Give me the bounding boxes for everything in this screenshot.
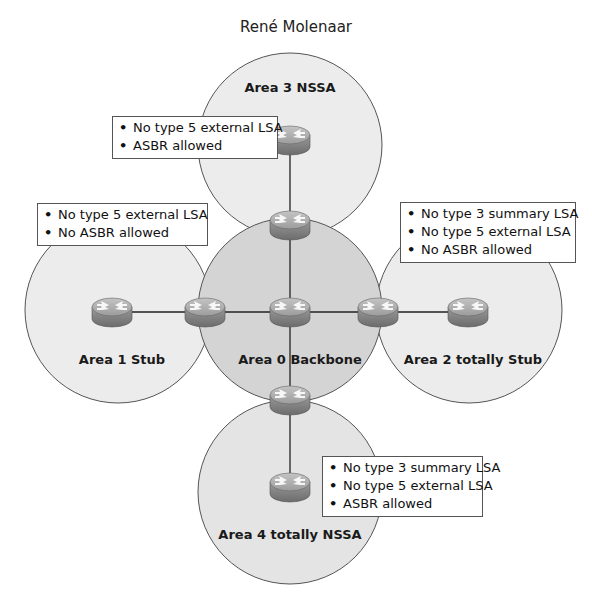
router-icon — [185, 298, 225, 327]
router-icon — [270, 386, 310, 415]
router-icon — [448, 298, 488, 327]
note-item: No ASBR allowed — [407, 241, 567, 259]
area3-label: Area 3 NSSA — [244, 80, 335, 95]
router-icon — [358, 298, 398, 327]
note-item: No type 5 external LSA — [44, 206, 199, 224]
note-item: No type 3 summary LSA — [329, 459, 474, 477]
area1-note: No type 5 external LSA No ASBR allowed — [37, 203, 208, 246]
note-item: ASBR allowed — [329, 495, 474, 513]
note-item: No type 5 external LSA — [407, 223, 567, 241]
router-icon — [92, 298, 132, 327]
router-icon — [270, 298, 310, 327]
router-icon — [270, 473, 310, 502]
note-item: ASBR allowed — [119, 137, 269, 155]
note-item: No type 5 external LSA — [119, 119, 269, 137]
area1-label: Area 1 Stub — [79, 352, 165, 367]
note-item: No type 5 external LSA — [329, 477, 474, 495]
note-item: No type 3 summary LSA — [407, 205, 567, 223]
area4-note: No type 3 summary LSA No type 5 external… — [322, 456, 483, 517]
area3-note: No type 5 external LSA ASBR allowed — [112, 116, 278, 159]
router-icon — [270, 211, 310, 240]
area0-label: Area 0 Backbone — [238, 352, 362, 367]
area4-label: Area 4 totally NSSA — [218, 527, 361, 542]
area2-label: Area 2 totally Stub — [404, 352, 542, 367]
note-item: No ASBR allowed — [44, 224, 199, 242]
area2-note: No type 3 summary LSA No type 5 external… — [400, 202, 576, 263]
